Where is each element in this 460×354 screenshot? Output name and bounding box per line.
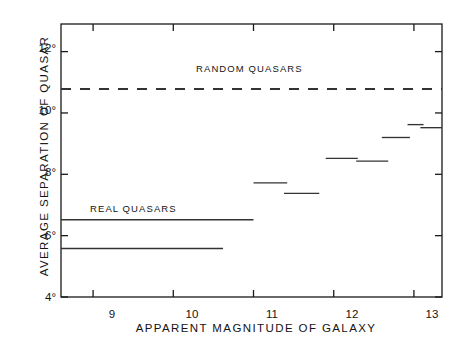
y-tick-label-10: 10° xyxy=(22,104,56,116)
y-tick-label-4: 4° xyxy=(22,291,56,303)
x-tick-label-10: 10 xyxy=(177,308,207,320)
y-tick-label-12: 12° xyxy=(22,42,56,54)
x-axis-title: APPARENT MAGNITUDE OF GALAXY xyxy=(0,322,460,334)
x-tick-label-11: 11 xyxy=(257,308,287,320)
plot-area xyxy=(0,0,460,354)
y-axis-title: AVERAGE SEPARATION OF QUASAR xyxy=(38,26,50,286)
x-tick-label-9: 9 xyxy=(97,308,127,320)
x-tick-label-12: 12 xyxy=(337,308,367,320)
x-tick-label-13: 13 xyxy=(417,308,447,320)
y-tick-label-8: 8° xyxy=(22,166,56,178)
y-tick-label-6: 6° xyxy=(22,229,56,241)
annotation-real-quasars: REAL QUASARS xyxy=(90,203,177,214)
figure-container: AVERAGE SEPARATION OF QUASAR APPARENT MA… xyxy=(0,0,460,354)
annotation-random-quasars: RANDOM QUASARS xyxy=(196,63,303,74)
